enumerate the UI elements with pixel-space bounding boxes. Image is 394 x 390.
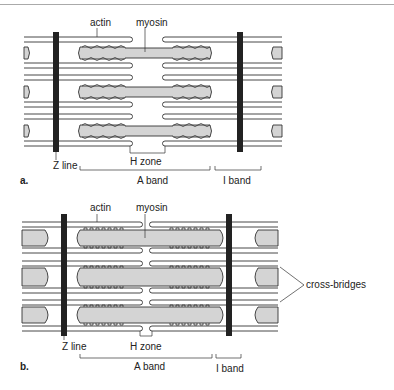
panel-label-a: a. [20, 176, 28, 186]
z-line-left-a [53, 32, 59, 152]
label-cross-bridges: cross-bridges [306, 280, 366, 290]
label-i-band-b: I band [216, 364, 244, 374]
label-actin-b: actin [90, 203, 111, 213]
label-i-band-a: I band [223, 176, 251, 186]
sarcomere-diagram [0, 0, 394, 390]
z-line-right-a [237, 32, 243, 152]
label-a-band-b: A band [134, 362, 165, 372]
panel-a [24, 28, 282, 170]
myosin-filaments-a [24, 47, 282, 137]
label-h-zone-a: H zone [130, 157, 162, 167]
label-z-line-a: Z line [53, 161, 77, 171]
panel-b [22, 214, 304, 358]
label-myosin-b: myosin [136, 203, 168, 213]
label-h-zone-b: H zone [130, 342, 162, 352]
label-z-line-b: Z line [62, 342, 86, 352]
label-a-band-a: A band [137, 176, 168, 186]
myosin-filaments-b [22, 230, 278, 323]
label-actin-a: actin [90, 18, 111, 28]
label-myosin-a: myosin [136, 18, 168, 28]
z-line-right-b [226, 214, 232, 336]
panel-label-b: b. [20, 362, 29, 372]
z-line-left-b [61, 214, 67, 336]
